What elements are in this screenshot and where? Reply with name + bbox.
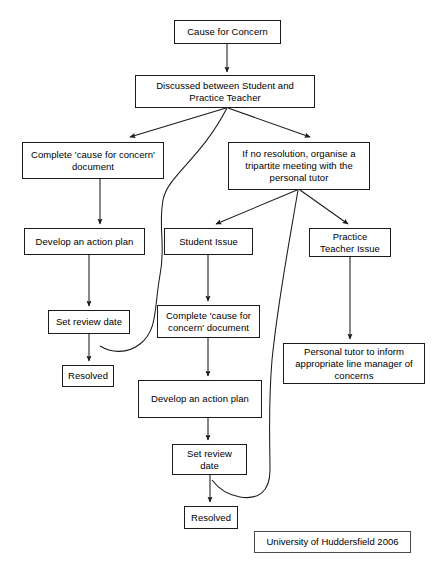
credit-box: University of Huddersfield 2006 [254, 531, 411, 553]
edge-discussed-to-no-resolution [228, 108, 310, 137]
node-resolved-left[interactable]: Resolved [62, 365, 114, 387]
node-cause-for-concern[interactable]: Cause for Concern [174, 20, 281, 44]
node-set-review-date-middle[interactable]: Set review date [172, 444, 247, 475]
node-develop-an-action-plan-middle[interactable]: Develop an action plan [138, 380, 262, 418]
edge-discussed-to-complete-left [130, 108, 226, 137]
node-practice-teacher-issue[interactable]: Practice Teacher Issue [309, 228, 391, 257]
node-personal-tutor-to-inform-line-manager[interactable]: Personal tutor to inform appropriate lin… [283, 343, 425, 384]
flowchart-canvas: Cause for Concern Discussed between Stud… [0, 0, 442, 566]
node-develop-an-action-plan-left[interactable]: Develop an action plan [24, 228, 145, 255]
node-student-issue[interactable]: Student Issue [164, 228, 253, 255]
edge-no-resolution-to-student-issue [216, 190, 297, 224]
node-discussed-between-student-and-practice-teacher[interactable]: Discussed between Student and Practice T… [135, 75, 315, 108]
node-set-review-date-left[interactable]: Set review date [48, 310, 130, 334]
node-complete-cause-for-concern-document-middle[interactable]: Complete 'cause for concern' document [157, 305, 260, 338]
node-resolved-middle[interactable]: Resolved [184, 506, 238, 529]
node-complete-cause-for-concern-document-left[interactable]: Complete 'cause for concern' document [22, 142, 164, 179]
node-if-no-resolution-tripartite-meeting[interactable]: If no resolution, organise a tripartite … [228, 142, 370, 190]
edge-no-resolution-to-pt-issue [300, 190, 348, 224]
